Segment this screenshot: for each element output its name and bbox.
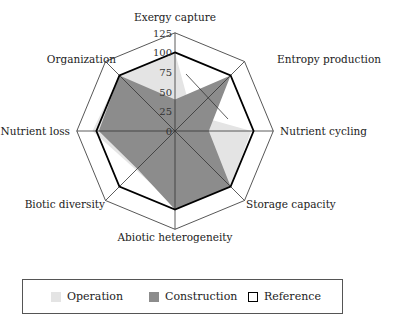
operation-swatch [51, 292, 61, 302]
legend: Operation Construction Reference [22, 279, 343, 314]
legend-item-construction: Construction [149, 290, 237, 303]
construction-swatch [149, 292, 159, 302]
legend-label-reference: Reference [264, 290, 321, 303]
axis-label: Nutrient cycling [280, 125, 367, 137]
tick-label: 50 [159, 87, 172, 98]
tick-label: 125 [153, 28, 172, 39]
axis-label: Entropy production [277, 53, 381, 65]
axis-label: Storage capacity [246, 198, 336, 210]
axis-label: Organization [47, 53, 116, 65]
radar-chart: 0255075100125Exergy captureEntropy produ… [0, 0, 412, 275]
axis-label: Abiotic heterogeneity [117, 231, 233, 243]
axis-label: Biotic diversity [25, 198, 105, 210]
tick-label: 0 [166, 126, 172, 137]
legend-item-reference: Reference [248, 290, 321, 303]
axis-label: Nutrient loss [0, 125, 70, 137]
legend-item-operation: Operation [51, 290, 123, 303]
axis-label: Exergy capture [134, 11, 216, 23]
legend-label-construction: Construction [165, 290, 237, 303]
reference-swatch [248, 292, 258, 302]
tick-label: 100 [153, 47, 172, 58]
tick-label: 75 [159, 67, 172, 78]
tick-label: 25 [159, 106, 172, 117]
legend-label-operation: Operation [67, 290, 123, 303]
